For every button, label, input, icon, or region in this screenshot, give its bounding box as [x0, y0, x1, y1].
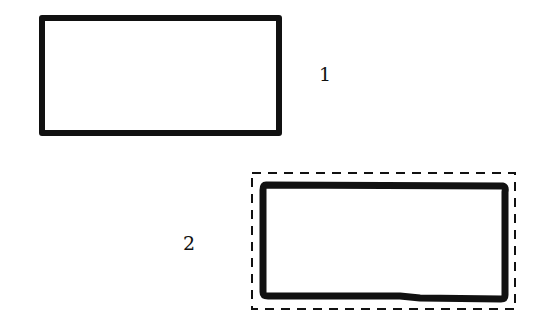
rectangle-1[interactable]	[42, 18, 279, 133]
shape-label-1: 1	[319, 65, 331, 84]
diagram-svg	[0, 0, 542, 326]
diagram-canvas: 1 2	[0, 0, 542, 326]
rectangle-2[interactable]	[263, 185, 505, 299]
shape-label-2: 2	[183, 234, 195, 253]
